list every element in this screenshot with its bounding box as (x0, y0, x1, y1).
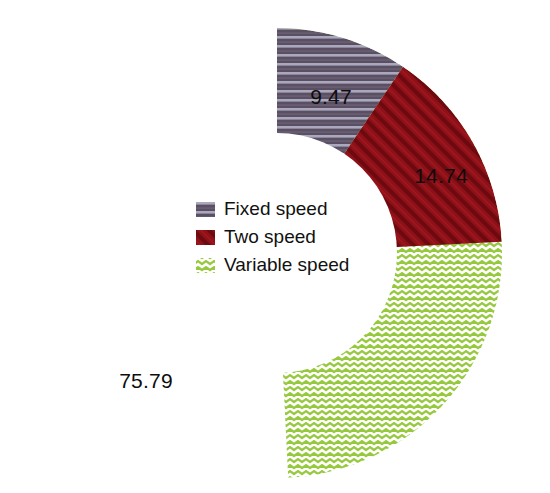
slice-value-fixed-speed: 9.47 (310, 85, 352, 109)
legend-label-fixed-speed: Fixed speed (224, 199, 328, 219)
legend-item-two-speed[interactable]: Two speed (196, 224, 366, 250)
slice-value-variable-speed: 75.79 (119, 369, 173, 393)
variable-speed-swatch (196, 258, 215, 273)
legend-item-variable-speed[interactable]: Variable speed (196, 252, 366, 278)
chart-legend: Fixed speed Two speed Variable speed (196, 196, 366, 280)
legend-label-two-speed: Two speed (224, 227, 316, 247)
legend-label-variable-speed: Variable speed (224, 255, 349, 275)
fixed-speed-swatch (196, 202, 215, 217)
chart-canvas: 9.47 14.74 75.79 Fixed speed Two speed V… (0, 0, 550, 493)
slice-value-two-speed: 14.74 (414, 164, 468, 188)
legend-item-fixed-speed[interactable]: Fixed speed (196, 196, 366, 222)
two-speed-swatch (196, 230, 215, 245)
